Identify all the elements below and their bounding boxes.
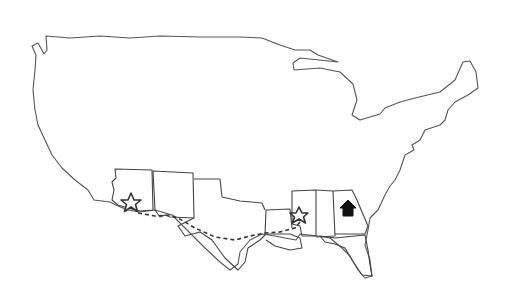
state-texas [178,210,266,270]
star-icon [290,207,308,223]
state-oklahoma [194,179,265,210]
us-outline [32,36,478,278]
us-map [0,0,510,304]
state-louisiana [266,234,302,250]
state-alabama [316,190,335,237]
home-icon [340,200,356,216]
state-florida [320,235,372,276]
state-arkansas [266,209,292,228]
